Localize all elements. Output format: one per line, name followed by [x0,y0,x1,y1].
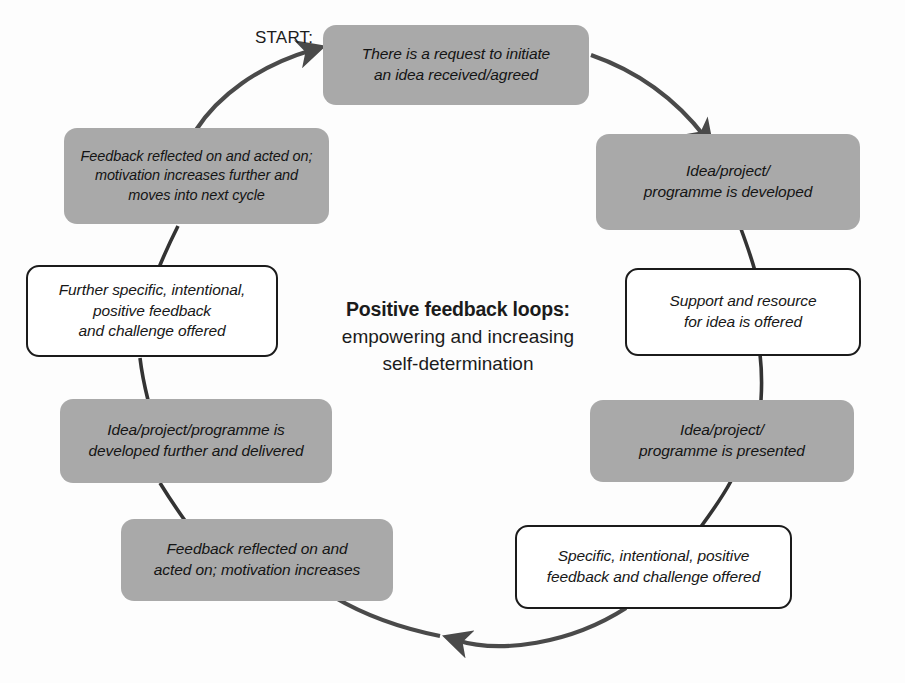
connector-delivered-to-further [140,358,148,400]
node-further-specific-feedback[interactable]: Further specific, intentional, positive … [26,265,278,357]
center-caption-line2: self-determination [293,351,623,378]
node-feedback-reflected[interactable]: Feedback reflected on and acted on; moti… [121,519,393,601]
node-support-resource[interactable]: Support and resource for idea is offered [625,268,861,356]
node-feedback-next-cycle-text: Feedback reflected on and acted on; moti… [74,147,319,205]
node-idea-developed[interactable]: Idea/project/ programme is developed [596,134,860,230]
center-caption-line1: empowering and increasing [293,324,623,351]
connector-reflected-to-delivered [160,483,186,522]
node-specific-feedback-text: Specific, intentional, positive feedback… [527,546,780,587]
start-label: START: [255,28,313,48]
connector-support-to-presented [760,354,762,400]
node-request-initiate-text: There is a request to initiate an idea r… [333,44,579,85]
connector-further-to-nextcycle [158,226,178,270]
node-feedback-next-cycle[interactable]: Feedback reflected on and acted on; moti… [64,128,329,224]
center-caption-title: Positive feedback loops: [293,296,623,324]
node-specific-feedback[interactable]: Specific, intentional, positive feedback… [515,525,792,609]
node-developed-delivered[interactable]: Idea/project/programme is developed furt… [60,399,332,483]
node-feedback-reflected-text: Feedback reflected on and acted on; moti… [131,539,383,580]
connector-presented-to-feedback [700,481,731,528]
node-support-resource-text: Support and resource for idea is offered [637,291,849,332]
connector-start-to-developed [591,55,705,137]
node-idea-developed-text: Idea/project/ programme is developed [606,161,850,202]
connector-bottom-to-reflected [334,597,440,636]
node-developed-delivered-text: Idea/project/programme is developed furt… [70,420,322,461]
node-idea-presented[interactable]: Idea/project/ programme is presented [590,400,854,482]
node-idea-presented-text: Idea/project/ programme is presented [600,420,844,461]
connector-developed-to-support [741,229,755,271]
node-request-initiate[interactable]: There is a request to initiate an idea r… [323,25,589,105]
center-caption: Positive feedback loops: empowering and … [293,296,623,378]
diagram-canvas: START: There is a request to initiate an… [0,0,905,683]
node-further-specific-feedback-text: Further specific, intentional, positive … [38,280,266,342]
connector-bottom-loop [456,608,626,646]
connector-to-start [196,50,312,130]
